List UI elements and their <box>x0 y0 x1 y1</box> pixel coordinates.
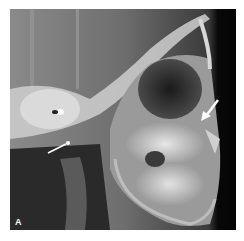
arrow-right-icon <box>198 97 222 123</box>
radiograph-image: A <box>10 9 236 230</box>
arrow-left-icon <box>46 138 74 156</box>
panel-label: A <box>15 217 22 227</box>
